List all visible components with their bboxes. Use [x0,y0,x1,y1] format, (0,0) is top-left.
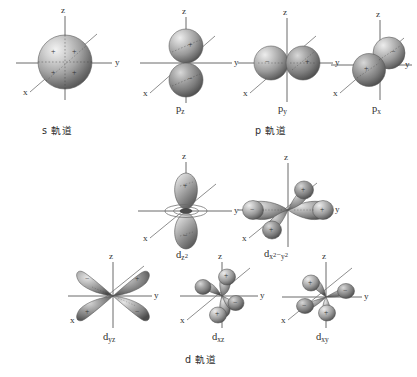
caption-py: py [278,104,287,115]
group-caption-p: p 軌道 [255,126,287,136]
sign-dxy-ul: + [308,279,312,287]
axis-label-y-dz2: y [234,206,239,215]
group-caption-s: s 軌道 [42,126,72,136]
orbital-diagram-canvas [0,0,417,377]
sign-px-minus: − [391,48,396,56]
axis-label-y-px: y [405,60,410,69]
orbital-dyz [68,262,152,328]
sign-s-4: + [72,69,77,77]
caption-pz: pz [176,104,185,115]
sign-pz-minus: − [188,75,193,83]
axis-label-y-dyz: y [154,291,159,300]
sign-dx2y2-up: + [301,186,305,194]
sign-dxy-ll: − [302,302,306,310]
sign-dxz-top: + [224,272,228,280]
axis-label-x-dz2: x [143,234,148,243]
axis-label-x-dxy: x [281,316,286,325]
axis-label-y-dxy: y [364,292,369,301]
orbital-s [16,16,112,100]
caption-dx2y2: dx2−y2 [264,249,288,260]
axis-label-y-pz: y [234,58,239,67]
sign-dx2y2-down: + [269,226,273,234]
axis-label-z-dxz: z [218,252,222,261]
orbital-px [331,20,412,100]
sign-dx2y2-right: + [320,206,324,214]
sign-dxy-lr: + [324,309,328,317]
axis-label-x-px: x [333,89,338,98]
axis-label-z-dxy: z [322,252,326,261]
orbital-figure: z y x z y x z y x z y x z y x z y x z y … [0,0,417,377]
sign-pz-plus: + [188,41,193,49]
axis-label-x-dxz: x [180,316,185,325]
axis-label-z-py: z [283,8,287,17]
caption-dyz: dyz [103,332,115,343]
group-caption-d: d 軌道 [185,355,217,365]
axis-label-z-dyz: z [109,252,113,261]
sign-s-2: + [72,48,77,56]
axis-label-x-py: x [243,89,248,98]
axis-label-y-dx2y2: y [335,205,340,214]
axis-label-x-pz: x [143,89,148,98]
sign-py-plus: + [305,58,310,66]
sign-dz2-minus: − [183,232,187,240]
sign-dxz-right: − [233,299,237,307]
axis-label-z-dz2: z [182,152,186,161]
axis-label-z-dx2y2: z [284,153,288,162]
axis-label-z-px: z [376,10,380,19]
axis-label-z-pz: z [182,7,186,16]
sign-s-3: + [51,69,56,77]
sign-dx2y2-left: − [250,206,254,214]
axis-label-y-dxz: y [260,291,265,300]
caption-px: px [372,104,381,115]
axis-label-y-py: y [335,58,340,67]
sign-dyz-ll: + [85,308,89,316]
axis-label-y-s: y [115,58,120,67]
caption-dxy: dxy [316,332,329,343]
sign-dz2-plus: + [183,182,187,190]
axis-label-x-s: x [23,88,28,97]
sign-px-plus: + [364,65,369,73]
sign-dxy-ur: − [343,287,347,295]
sign-py-minus: − [265,58,270,66]
axis-label-x-dyz: x [70,316,75,325]
orbital-pz [140,17,232,103]
caption-dxz: dxz [212,332,224,343]
orbital-dxz [180,262,258,328]
sign-dyz-ul: − [85,275,89,283]
sign-dyz-ur: + [135,275,139,283]
axis-label-x-dx2y2: x [242,234,247,243]
axis-label-z-s: z [61,6,65,15]
orbital-py [238,18,333,102]
sign-s-1: + [51,48,56,56]
sign-dyz-lr: − [135,308,139,316]
orbital-dxy [282,262,362,328]
caption-dz2: dz2 [176,250,188,261]
sign-dxz-bot: + [215,310,219,318]
